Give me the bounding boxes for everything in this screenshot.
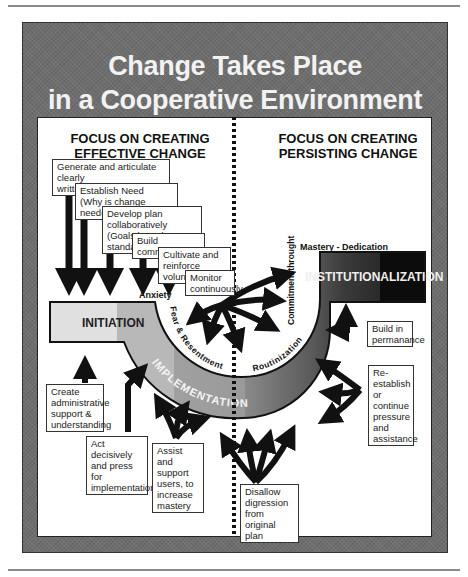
- box-text: assistance: [373, 433, 409, 444]
- institutionalization-label: INSTITUTIONALIZATION: [305, 270, 443, 284]
- right-heading: FOCUS ON CREATING PERSISTING CHANGE: [268, 131, 428, 161]
- anxiety-label: Anxiety: [139, 290, 172, 300]
- left-heading-line-1: FOCUS ON CREATING: [60, 131, 220, 146]
- box-text: Re-establish: [373, 367, 409, 389]
- box-text: Create: [51, 386, 99, 397]
- box-text: Act decisively: [91, 438, 143, 460]
- box-text: Monitor: [190, 272, 230, 283]
- box-text: support &: [51, 408, 99, 419]
- right-heading-line-1: FOCUS ON CREATING: [268, 131, 428, 146]
- box-text: and press for: [91, 460, 143, 482]
- box-reestablish-pressure: Re-establish or continue pressure and as…: [368, 365, 414, 446]
- box-text: Assist: [157, 445, 199, 456]
- box-text: pressure: [373, 411, 409, 422]
- box-text: mastery: [157, 500, 199, 511]
- box-text: Cultivate and: [163, 249, 226, 260]
- box-text: Build in: [372, 323, 408, 334]
- box-monitor: Monitor continuously: [185, 270, 235, 296]
- box-text: Develop plan collaboratively: [107, 208, 197, 230]
- left-heading: FOCUS ON CREATING EFFECTIVE CHANGE: [60, 131, 220, 161]
- box-text: permanance: [372, 334, 408, 345]
- box-text: and: [373, 422, 409, 433]
- box-text: or continue: [373, 389, 409, 411]
- box-text: and support: [157, 456, 199, 478]
- box-text: digression from: [245, 497, 294, 519]
- phase-divider: [232, 117, 236, 537]
- box-text: original plan: [245, 519, 294, 541]
- box-text: implementation: [91, 482, 143, 493]
- initiation-label: INITIATION: [82, 316, 144, 330]
- bottom-rule: [8, 569, 460, 571]
- box-text: increase: [157, 489, 199, 500]
- box-assist-users: Assist and support users, to increase ma…: [152, 443, 204, 513]
- box-text: Disallow: [245, 486, 294, 497]
- box-text: understanding: [51, 419, 99, 430]
- mastery-dedication-label: Mastery - Dedication: [300, 242, 388, 252]
- box-text: Generate and articulate clearly: [57, 161, 165, 183]
- box-create-support: Create administrative support & understa…: [46, 384, 104, 432]
- box-disallow-digression: Disallow digression from original plan: [240, 484, 299, 543]
- box-text: Establish Need: [80, 185, 173, 196]
- box-act-decisively: Act decisively and press for implementat…: [86, 436, 148, 495]
- commitment-label: Commitment throught: [286, 236, 296, 325]
- box-text: users, to: [157, 478, 199, 489]
- box-text: continuously: [190, 283, 230, 294]
- box-text: administrative: [51, 397, 99, 408]
- right-heading-line-2: PERSISTING CHANGE: [268, 146, 428, 161]
- box-build-permanance: Build in permanance: [367, 321, 413, 347]
